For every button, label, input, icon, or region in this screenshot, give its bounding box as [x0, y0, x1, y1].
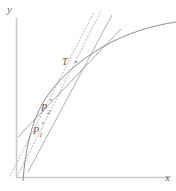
- dotted-secant-lines-group: [10, 11, 101, 176]
- point-label-T-base: T: [62, 56, 68, 67]
- point-label-P1-sub: 1: [39, 131, 43, 139]
- point-label-P1: P1: [33, 126, 43, 139]
- y-axis-label: y: [7, 4, 12, 15]
- secant-solid-upper: [28, 15, 112, 172]
- x-axis-label: x: [165, 172, 170, 183]
- figure-canvas: [0, 0, 176, 191]
- tangent-secant-figure: y x T P2 P1: [0, 0, 176, 191]
- point-label-P2-sub: 2: [47, 108, 51, 116]
- solid-secant-line-group: [28, 15, 112, 172]
- secant-through-P1-dotted: [10, 12, 94, 176]
- point-marker-P2: [50, 99, 52, 101]
- point-label-P2: P2: [41, 103, 51, 116]
- point-marker-P1: [42, 122, 44, 124]
- point-label-T: T: [62, 57, 68, 67]
- point-marker-T: [75, 61, 77, 63]
- axes-group: [16, 18, 170, 178]
